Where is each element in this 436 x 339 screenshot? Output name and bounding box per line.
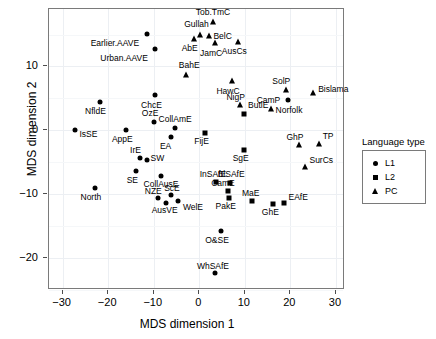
data-point-marker-l1	[98, 100, 103, 105]
data-point-marker-l1	[123, 127, 128, 132]
plot-panel: Earlier.AAVEUrban.AAVEGullahAbETob.TmCBe…	[48, 8, 344, 289]
data-point-label: OzE	[142, 109, 159, 118]
data-point-label: FijE	[194, 137, 209, 146]
data-point-label: ScE	[164, 184, 180, 193]
data-point-marker-pc	[302, 163, 308, 169]
data-point-marker-pc	[183, 71, 189, 77]
data-point-label: CamE	[211, 179, 235, 188]
legend-title: Language type	[362, 136, 432, 147]
x-axis-tick-label: −30	[42, 296, 82, 308]
legend-item-label: L2	[385, 172, 395, 182]
triangle-icon	[367, 188, 383, 194]
data-point-marker-pc	[235, 38, 241, 44]
data-point-marker-pc	[197, 31, 203, 37]
x-axis-tick	[107, 290, 108, 294]
data-point-label: Tob.TmC	[196, 8, 230, 17]
x-axis-tick	[335, 290, 336, 294]
data-point-marker-l1	[218, 229, 223, 234]
y-axis-tick	[43, 257, 47, 258]
gridline-horizontal-minor	[49, 290, 343, 291]
legend-item-label: L1	[385, 158, 395, 168]
data-point-marker-l2	[225, 189, 230, 194]
data-point-label: WhSAfE	[197, 262, 229, 271]
x-axis-tick-label: 30	[315, 296, 355, 308]
data-point-label: CollAmE	[159, 115, 192, 124]
data-point-label: Earlier.AAVE	[91, 39, 140, 48]
data-point-marker-pc	[212, 40, 218, 46]
x-axis-tick	[198, 290, 199, 294]
data-point-marker-l2	[250, 199, 255, 204]
data-point-label: AusVE	[152, 206, 178, 215]
data-point-label: PakE	[216, 202, 236, 211]
x-axis-tick	[244, 290, 245, 294]
data-point-marker-l1	[176, 198, 181, 203]
data-point-label: WelE	[183, 203, 203, 212]
x-axis-title: MDS dimension 1	[38, 317, 336, 331]
data-point-label: North	[80, 193, 101, 202]
mds-scatter-plot: MDS dimension 2 MDS dimension 1 Earlier.…	[0, 0, 436, 339]
data-point-marker-pc	[283, 86, 289, 92]
data-point-label: ButlE	[248, 101, 268, 110]
data-point-marker-l1	[286, 98, 291, 103]
data-point-marker-l1	[153, 93, 158, 98]
data-point-marker-pc	[316, 141, 322, 147]
data-point-label: MaE	[242, 189, 259, 198]
legend-item-pc[interactable]: PC	[367, 184, 421, 198]
legend-item-l2[interactable]: L2	[367, 170, 421, 184]
gridline-horizontal-minor	[49, 162, 343, 163]
data-point-label: GhP	[286, 133, 303, 142]
data-point-label: AbE	[182, 44, 198, 53]
x-axis-tick-label: 10	[224, 296, 264, 308]
data-point-marker-l1	[92, 186, 97, 191]
data-point-label: TP	[323, 132, 334, 141]
y-axis-tick-label: 0	[0, 123, 38, 135]
x-axis-tick	[153, 290, 154, 294]
gridline-vertical	[108, 9, 109, 288]
gridline-vertical	[336, 9, 337, 288]
data-point-label: IsSE	[80, 130, 98, 139]
data-point-label: SW	[151, 154, 165, 163]
data-point-label: SE	[127, 176, 138, 185]
data-point-label: NfldE	[85, 107, 106, 116]
y-axis-tick-label: 10	[0, 59, 38, 71]
data-point-marker-l2	[281, 200, 286, 205]
data-point-label: Urban.AAVE	[100, 54, 148, 63]
data-point-marker-l1	[173, 125, 178, 130]
data-point-marker-l1	[144, 31, 149, 36]
y-axis-tick	[43, 65, 47, 66]
data-point-label: O&SE	[205, 236, 229, 245]
data-point-marker-l2	[242, 147, 247, 152]
y-axis-tick	[43, 193, 47, 194]
data-point-label: SgE	[233, 154, 249, 163]
data-point-marker-pc	[229, 78, 235, 84]
data-point-label: SolP	[272, 77, 290, 86]
y-axis-tick-label: −20	[0, 251, 38, 263]
x-axis-tick-label: 20	[269, 296, 309, 308]
data-point-label: Norfolk	[276, 106, 303, 115]
legend-box: L1L2PC	[362, 150, 426, 204]
data-point-marker-l1	[138, 155, 143, 160]
data-point-label: AusCs	[222, 47, 247, 56]
square-icon	[367, 175, 383, 180]
data-point-marker-l1	[144, 158, 149, 163]
data-point-label: SurCs	[309, 156, 333, 165]
x-axis-tick-label: −20	[87, 296, 127, 308]
data-point-marker-pc	[206, 32, 212, 38]
legend-item-label: PC	[385, 186, 398, 196]
data-point-label: IrE	[130, 146, 141, 155]
data-point-marker-pc	[310, 90, 316, 96]
gridline-horizontal-minor	[49, 226, 343, 227]
data-point-marker-pc	[268, 106, 274, 112]
gridline-vertical	[290, 9, 291, 288]
data-point-marker-l1	[168, 135, 173, 140]
data-point-marker-l2	[241, 111, 246, 116]
data-point-marker-l1	[151, 120, 156, 125]
gridline-horizontal-minor	[49, 98, 343, 99]
legend-item-l1[interactable]: L1	[367, 156, 421, 170]
gridline-vertical	[63, 9, 64, 288]
legend: Language type L1L2PC	[362, 136, 432, 204]
data-point-marker-pc	[191, 35, 197, 41]
data-point-label: EA	[160, 142, 171, 151]
data-point-marker-l1	[152, 46, 157, 51]
data-point-label: Bislama	[318, 85, 348, 94]
